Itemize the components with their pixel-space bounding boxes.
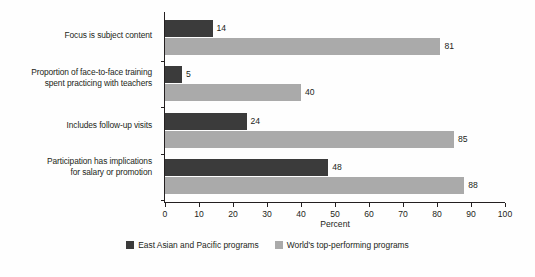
bar-series-0-category-2[interactable] [165,113,247,130]
x-tick-80 [437,203,438,207]
category-axis-labels: Focus is subject content Proportion of f… [0,14,158,200]
bar-value-label-series-1-category-0: 81 [444,38,454,55]
plot-area: 0102030405060708090100 148154024854888 [165,14,505,200]
category-label-0: Focus is subject content [0,30,152,41]
x-tick-90 [471,203,472,207]
category-label-2-line-0: Includes follow-up visits [0,120,152,131]
y-tick-2 [161,107,165,108]
legend-label-0: East Asian and Pacific programs [138,240,259,250]
bar-series-0-category-0[interactable] [165,20,213,37]
y-tick-1 [161,61,165,62]
bar-series-1-category-0[interactable] [165,38,440,55]
x-tick-10 [199,203,200,207]
legend-swatch-icon-dark [126,241,134,249]
legend-item-0[interactable]: East Asian and Pacific programs [126,240,259,250]
x-tick-60 [369,203,370,207]
bar-chart-figure: Focus is subject content Proportion of f… [0,0,535,277]
x-tick-label-10: 10 [194,209,204,219]
x-tick-label-100: 100 [498,209,512,219]
x-tick-40 [301,203,302,207]
x-tick-label-60: 60 [364,209,374,219]
x-tick-70 [403,203,404,207]
legend-swatch-icon-light [275,241,283,249]
x-axis-title: Percent [165,219,505,229]
category-label-3-line-0: Participation has implications [0,156,152,167]
x-tick-label-70: 70 [398,209,408,219]
bar-value-label-series-0-category-3: 48 [332,159,342,176]
category-label-2: Includes follow-up visits [0,120,152,131]
x-tick-label-30: 30 [262,209,272,219]
chart-legend: East Asian and Pacific programs World's … [0,240,535,250]
legend-item-1[interactable]: World's top-performing programs [275,240,409,250]
bar-series-1-category-1[interactable] [165,84,301,101]
bar-series-0-category-3[interactable] [165,159,328,176]
bar-value-label-series-0-category-0: 14 [217,20,227,37]
x-tick-label-0: 0 [163,209,168,219]
category-label-1-line-1: spent practicing with teachers [0,78,152,89]
bar-series-1-category-3[interactable] [165,177,464,194]
bar-value-label-series-1-category-1: 40 [305,84,315,101]
x-tick-30 [267,203,268,207]
bar-value-label-series-1-category-2: 85 [458,131,468,148]
bar-value-label-series-0-category-2: 24 [251,113,261,130]
bar-series-0-category-1[interactable] [165,66,182,83]
legend-label-1: World's top-performing programs [287,240,409,250]
bar-value-label-series-0-category-1: 5 [186,66,191,83]
bar-value-label-series-1-category-3: 88 [468,177,478,194]
category-label-3: Participation has implications for salar… [0,156,152,177]
x-tick-20 [233,203,234,207]
x-tick-50 [335,203,336,207]
x-tick-label-90: 90 [466,209,476,219]
x-tick-0 [165,203,166,207]
x-tick-label-40: 40 [296,209,306,219]
category-label-0-line-0: Focus is subject content [0,30,152,41]
category-label-3-line-1: for salary or promotion [0,167,152,178]
category-label-1-line-0: Proportion of face-to-face training [0,67,152,78]
y-tick-end [161,200,165,201]
category-label-1: Proportion of face-to-face training spen… [0,67,152,88]
x-tick-label-80: 80 [432,209,442,219]
x-tick-100 [505,203,506,207]
bar-series-1-category-2[interactable] [165,131,454,148]
x-tick-label-50: 50 [330,209,340,219]
x-tick-label-20: 20 [228,209,238,219]
y-tick-3 [161,154,165,155]
